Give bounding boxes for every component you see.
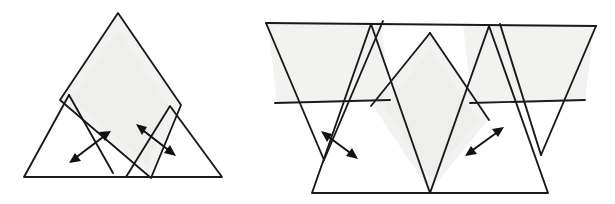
right-left-parallelogram-shading — [268, 22, 390, 103]
geometry-diagram-canvas — [0, 0, 615, 204]
right-right-parallelogram-shading — [463, 24, 594, 103]
